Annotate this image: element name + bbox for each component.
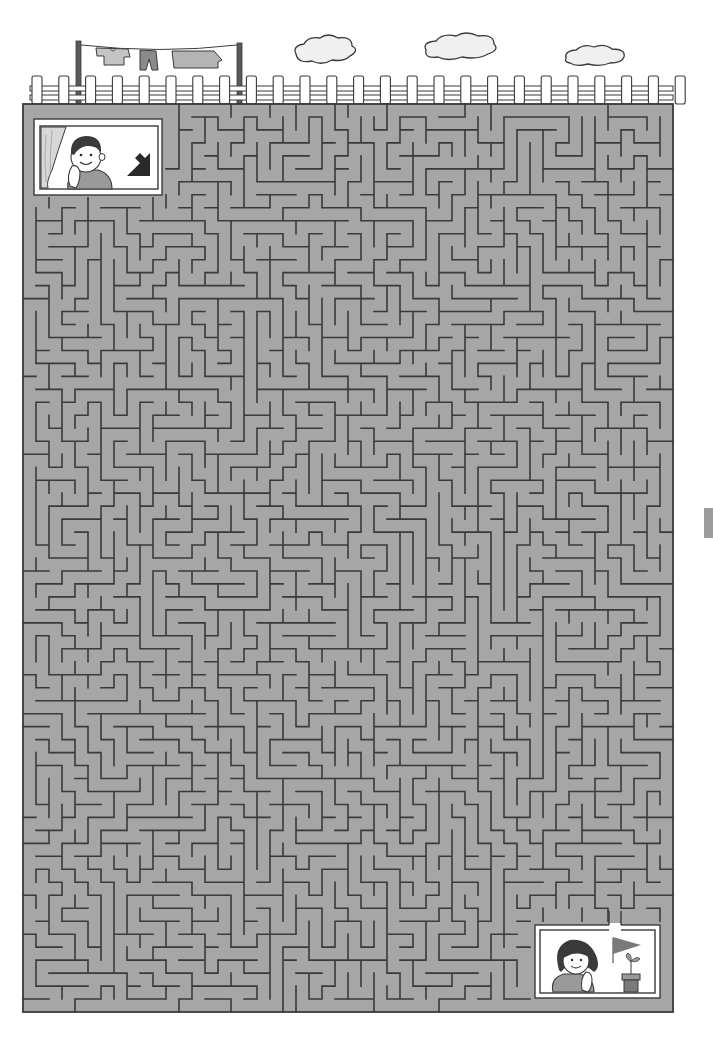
fence-picket	[541, 76, 551, 104]
fence-picket	[300, 76, 310, 104]
cloud-icon	[566, 45, 625, 65]
cloud-icon	[425, 33, 496, 60]
fence-picket	[407, 76, 417, 104]
fence-picket	[139, 76, 149, 104]
cloud-icon	[295, 35, 356, 63]
fence-picket	[32, 76, 42, 104]
picket-fence	[30, 76, 685, 104]
maze-scene	[0, 0, 713, 1058]
fence-picket	[166, 76, 176, 104]
fence-picket	[648, 76, 658, 104]
fence-picket	[514, 76, 524, 104]
shirt-icon	[96, 48, 130, 65]
fence-picket	[246, 76, 256, 104]
fence-picket	[622, 76, 632, 104]
pants-icon	[140, 50, 158, 70]
towel-icon	[172, 51, 222, 68]
fence-picket	[434, 76, 444, 104]
fence-picket	[488, 76, 498, 104]
fence-picket	[112, 76, 122, 104]
fence-picket	[568, 76, 578, 104]
fence-picket	[595, 76, 605, 104]
scrollbar-handle[interactable]	[704, 508, 713, 538]
fence-picket	[59, 76, 69, 104]
fence-picket	[354, 76, 364, 104]
fence-picket	[675, 76, 685, 104]
fence-picket	[380, 76, 390, 104]
start-window[interactable]	[33, 117, 162, 197]
fence-picket	[193, 76, 203, 104]
fence-picket	[86, 76, 96, 104]
fence-picket	[461, 76, 471, 104]
fence-picket	[273, 76, 283, 104]
fence-picket	[220, 76, 230, 104]
fence-picket	[327, 76, 337, 104]
goal-window[interactable]	[534, 911, 662, 1000]
